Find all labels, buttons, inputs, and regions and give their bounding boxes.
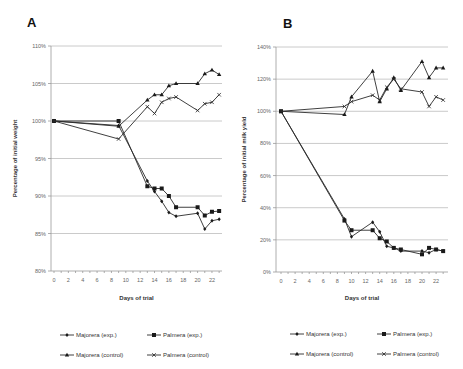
triangle-marker-icon	[420, 59, 424, 63]
x-tick-label: 8	[110, 277, 113, 283]
x-marker-icon	[427, 105, 431, 109]
legend-item: Majorera (control)	[60, 352, 123, 358]
x-tick-label: 4	[81, 277, 84, 283]
square-marker-icon	[427, 246, 431, 250]
x-tick-label: 14	[377, 278, 383, 284]
y-tick-label: 105%	[32, 81, 46, 87]
y-axis: 80%85%90%95%100%105%110%	[32, 43, 222, 274]
x-tick-label: 0	[52, 277, 55, 283]
square-marker-icon	[378, 236, 382, 240]
legend-label: Majorera (control)	[76, 352, 123, 358]
series-majorera-exp	[279, 109, 444, 254]
x-tick-label: 6	[96, 277, 99, 283]
x-axis: 0246810121416182022	[51, 271, 222, 283]
legend: Majorera (exp.)Palmera (exp.)Majorera (c…	[60, 332, 209, 358]
panel-title: A	[27, 15, 37, 30]
chart-a: A80%85%90%95%100%105%110%024681012141618…	[12, 15, 222, 358]
figure: A80%85%90%95%100%105%110%024681012141618…	[0, 0, 463, 369]
x-tick-label: 10	[348, 278, 354, 284]
y-tick-label: 20%	[260, 237, 271, 243]
square-marker-icon	[385, 239, 389, 243]
square-marker-icon	[160, 187, 164, 191]
y-tick-label: 80%	[260, 140, 271, 146]
x-marker-icon	[146, 105, 150, 109]
y-tick-label: 120%	[257, 76, 271, 82]
square-marker-icon	[392, 246, 396, 250]
x-tick-label: 16	[166, 277, 172, 283]
square-marker-icon	[434, 248, 438, 252]
x-tick-label: 22	[433, 278, 439, 284]
x-tick-label: 12	[363, 278, 369, 284]
square-marker-icon	[371, 228, 375, 232]
x-tick-label: 4	[308, 278, 311, 284]
y-tick-label: 110%	[32, 43, 46, 49]
y-tick-label: 85%	[35, 231, 46, 237]
square-marker-icon	[174, 205, 178, 209]
x-marker-icon	[160, 100, 164, 104]
legend: Majorera (exp.)Palmera (exp.)Majorera (c…	[290, 331, 439, 357]
x-tick-label: 2	[67, 277, 70, 283]
square-marker-icon	[167, 194, 171, 198]
square-marker-icon	[342, 219, 346, 223]
square-marker-icon	[203, 214, 207, 218]
diamond-marker-icon	[350, 235, 353, 239]
x-tick-label: 14	[151, 277, 157, 283]
legend-label: Majorera (control)	[306, 351, 353, 357]
x-tick-label: 12	[137, 277, 143, 283]
series-majorera-control	[279, 59, 446, 116]
y-tick-label: 95%	[35, 156, 46, 162]
chart-b: B0%20%40%60%80%100%120%140%0246810121416…	[241, 16, 448, 357]
legend-item: Majorera (control)	[290, 351, 353, 357]
panel-title: B	[283, 16, 292, 31]
square-marker-icon	[196, 205, 200, 209]
square-marker-icon	[382, 332, 386, 336]
y-tick-label: 40%	[260, 205, 271, 211]
legend-item: Palmera (exp.)	[377, 331, 432, 337]
legend-item: Majorera (exp.)	[60, 332, 117, 338]
series-palmera-control	[279, 77, 445, 113]
x-tick-label: 6	[322, 278, 325, 284]
square-marker-icon	[153, 187, 157, 191]
x-axis-title: Days of trial	[345, 295, 380, 301]
diamond-marker-icon	[218, 217, 221, 221]
legend-label: Majorera (exp.)	[76, 332, 117, 338]
square-marker-icon	[152, 333, 156, 337]
triangle-marker-icon	[145, 98, 149, 102]
square-marker-icon	[217, 209, 221, 213]
legend-label: Palmera (control)	[393, 351, 439, 357]
diamond-marker-icon	[427, 251, 430, 255]
x-tick-label: 16	[391, 278, 397, 284]
x-marker-icon	[434, 95, 438, 99]
y-tick-label: 100%	[257, 108, 271, 114]
triangle-marker-icon	[210, 68, 214, 72]
x-marker-icon	[153, 112, 157, 116]
square-marker-icon	[441, 249, 445, 253]
x-tick-label: 18	[405, 278, 411, 284]
x-tick-label: 22	[209, 277, 215, 283]
legend-item: Palmera (exp.)	[147, 332, 202, 338]
x-tick-label: 20	[195, 277, 201, 283]
y-axis: 0%20%40%60%80%100%120%140%	[257, 44, 448, 275]
y-tick-label: 60%	[260, 173, 271, 179]
x-tick-label: 20	[419, 278, 425, 284]
triangle-marker-icon	[370, 69, 374, 73]
x-tick-label: 2	[294, 278, 297, 284]
y-tick-label: 80%	[35, 268, 46, 274]
diamond-marker-icon	[295, 332, 298, 336]
x-tick-label: 0	[279, 278, 282, 284]
square-marker-icon	[145, 184, 149, 188]
legend-label: Majorera (exp.)	[306, 331, 347, 337]
square-marker-icon	[420, 252, 424, 256]
diamond-marker-icon	[65, 333, 68, 337]
x-axis-title: Days of trial	[119, 295, 154, 301]
x-marker-icon	[441, 98, 445, 102]
x-axis: 0246810121416182022	[276, 272, 448, 284]
legend-item: Palmera (control)	[377, 351, 439, 357]
square-marker-icon	[117, 119, 121, 123]
y-tick-label: 0%	[263, 269, 271, 275]
series-palmera-exp	[52, 119, 221, 218]
y-axis-title: Percentage of initial weight	[12, 120, 18, 198]
legend-label: Palmera (exp.)	[163, 332, 202, 338]
y-axis-title: Percentage of initial milk yield	[241, 116, 247, 202]
legend-label: Palmera (control)	[163, 352, 209, 358]
